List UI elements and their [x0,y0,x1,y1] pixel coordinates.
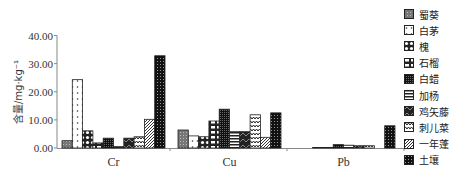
bar-cr-1 [72,80,82,148]
legend-swatch [404,90,414,100]
legend-label: 蜀葵 [419,7,439,22]
bar-cr-6 [124,138,134,148]
bar-cr-4 [103,138,113,148]
bar-cr-0 [62,141,72,148]
y-axis-label: 含量/mg·kg⁻¹ [12,60,24,124]
bar-pb-6 [354,146,364,148]
bars [62,56,395,148]
legend-swatch [404,25,414,35]
legend-item: 刺儿菜 [404,119,449,135]
legend-swatch [404,9,414,19]
legend-label: 一年蓬 [419,136,449,151]
bar-cu-1 [188,136,198,148]
legend-swatch [404,74,414,84]
y-tick-label: 40.00 [28,30,53,42]
legend-swatch [404,122,414,132]
legend-item: 白蜡 [404,71,449,87]
legend-item: 石榴 [404,55,449,71]
legend-swatch [404,106,414,116]
bar-pb-2 [313,147,323,148]
bar-cu-3 [209,121,219,148]
bar-cr-8 [144,119,154,148]
bar-pb-4 [333,145,343,148]
x-tick-label: Cr [108,155,120,169]
legend-item: 白茅 [404,22,449,38]
bar-cr-3 [93,143,103,148]
legend-item: 槐 [404,38,449,54]
bar-cr-2 [83,131,93,148]
y-tick-label: 0.00 [34,142,54,154]
y-tick-label: 30.00 [28,58,53,70]
legend-label: 土壤 [419,152,439,167]
x-tick-label: Cu [222,155,236,169]
bar-cr-5 [114,147,124,148]
bar-cu-0 [178,130,188,148]
legend-label: 鸡矢藤 [419,104,449,119]
legend-label: 刺儿菜 [419,120,449,135]
legend-item: 加杨 [404,87,449,103]
bar-chart: 0.0010.0020.0030.0040.00含量/mg·kg⁻¹CrCuPb [0,0,464,181]
legend-item: 蜀葵 [404,6,449,22]
x-tick-label: Pb [337,155,350,169]
legend-label: 槐 [419,39,429,54]
legend-item: 土壤 [404,152,449,168]
legend-item: 一年蓬 [404,136,449,152]
legend: 蜀葵白茅槐石榴白蜡加杨鸡矢藤刺儿菜一年蓬土壤 [404,6,449,168]
legend-swatch [404,58,414,68]
bar-cu-9 [271,113,281,148]
bar-cu-8 [260,137,270,148]
legend-label: 加杨 [419,88,439,103]
y-tick-label: 20.00 [28,86,53,98]
bar-pb-7 [364,146,374,148]
bar-pb-5 [344,145,354,148]
bar-cu-2 [199,137,209,148]
bar-cu-6 [240,132,250,148]
bar-cu-7 [250,115,260,148]
legend-label: 白蜡 [419,71,439,86]
bar-cr-9 [155,56,165,148]
legend-label: 石榴 [419,55,439,70]
legend-swatch [404,41,414,51]
legend-label: 白茅 [419,23,439,38]
y-tick-label: 10.00 [28,114,53,126]
bar-cu-5 [230,132,240,148]
legend-item: 鸡矢藤 [404,103,449,119]
bar-cr-7 [134,137,144,148]
legend-swatch [404,139,414,149]
legend-swatch [404,155,414,165]
bar-cu-4 [219,109,229,148]
bar-pb-9 [385,126,395,148]
bar-pb-3 [323,147,333,148]
